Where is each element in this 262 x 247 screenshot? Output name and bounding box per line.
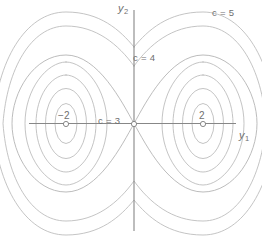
- y2-axis-label-text: y: [118, 2, 124, 14]
- y2-axis-label: y2: [118, 3, 128, 14]
- contour-plot-figure: y2 y1 c = 5 c = 4 c = 3 −2 2: [0, 0, 262, 247]
- y1-axis-label-subscript: 1: [245, 134, 249, 143]
- level-label-c4: c = 4: [133, 53, 155, 63]
- right-center-marker: [200, 121, 205, 126]
- y1-axis-label-text: y: [239, 129, 245, 141]
- level-label-c5: c = 5: [212, 8, 234, 18]
- level-label-c3: c = 3: [98, 116, 120, 126]
- left-center-marker: [63, 121, 68, 126]
- y2-axis-label-subscript: 2: [124, 7, 128, 16]
- right-center-point-label: 2: [199, 111, 205, 121]
- left-center-point-label: −2: [58, 111, 70, 121]
- y1-axis-label: y1: [239, 130, 249, 141]
- plot-canvas: [0, 0, 262, 247]
- saddle-marker: [131, 121, 136, 126]
